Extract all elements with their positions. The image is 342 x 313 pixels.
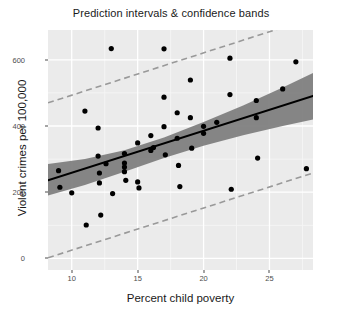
data-point [229,187,234,192]
data-point [123,178,128,183]
data-point [304,166,309,171]
data-point [177,184,182,189]
data-point [254,98,259,103]
data-point [57,185,62,190]
y-axis-title: Violent crimes per 100,000 [16,38,28,258]
data-point [98,212,103,217]
y-tick-mark [45,126,48,127]
data-point [69,190,74,195]
x-tick-label: 15 [133,274,141,283]
data-point [161,46,166,51]
x-axis-title: Percent child poverty [48,292,313,304]
data-point [56,168,61,173]
data-point [254,115,259,120]
data-point [280,86,285,91]
data-point [82,109,87,114]
data-point [201,131,206,136]
y-tick-label: 600 [12,55,25,64]
plot-svg [48,30,313,270]
y-tick-label: 400 [12,122,25,131]
data-point [227,92,232,97]
data-point [148,133,153,138]
data-point [176,163,181,168]
y-tick-mark [45,258,48,259]
data-point [109,46,114,51]
data-point [255,156,260,161]
data-point [293,59,298,64]
x-tick-mark [203,270,204,273]
y-tick-mark [45,192,48,193]
data-point [135,179,140,184]
data-point [96,154,101,159]
plot-panel [48,30,313,270]
data-point [188,77,193,82]
data-point [201,124,206,129]
data-point [161,124,166,129]
data-point [84,222,89,227]
x-tick-label: 10 [68,274,76,283]
data-point [122,164,127,169]
x-tick-mark [71,270,72,273]
data-point [161,95,166,100]
regression-line [48,96,313,180]
x-tick-label: 20 [199,274,207,283]
data-point [175,110,180,115]
y-tick-label: 200 [12,188,25,197]
data-point [110,191,115,196]
data-point [103,161,108,166]
data-point [97,180,102,185]
chart-container: Prediction intervals & confidence bands … [0,0,342,313]
x-tick-mark [137,270,138,273]
y-tick-label: 0 [21,254,25,263]
confidence-band [48,73,313,195]
x-tick-label: 25 [265,274,273,283]
data-point [151,145,156,150]
data-point [122,151,127,156]
data-point [96,125,101,130]
chart-title: Prediction intervals & confidence bands [0,7,342,19]
x-tick-mark [269,270,270,273]
data-point [163,152,168,157]
data-point [135,140,140,145]
data-point [175,136,180,141]
data-point [97,170,102,175]
data-point [227,56,232,61]
data-point [214,120,219,125]
data-point [188,115,193,120]
data-point [122,169,127,174]
data-point [189,146,194,151]
y-tick-mark [45,59,48,60]
data-point [136,185,141,190]
